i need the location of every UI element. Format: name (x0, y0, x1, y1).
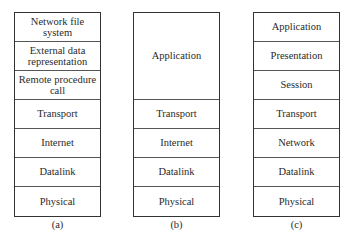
layer-network-file-system: Network file system (15, 13, 100, 42)
protocol-stack-c: Application Presentation Session Transpo… (253, 12, 340, 217)
layer-application: Application (254, 13, 339, 42)
layer-presentation: Presentation (254, 42, 339, 71)
layer-internet: Internet (15, 129, 100, 158)
layer-physical: Physical (254, 187, 339, 216)
layer-datalink: Datalink (254, 158, 339, 187)
layer-transport: Transport (254, 100, 339, 129)
layer-external-data-representation: External data representation (15, 42, 100, 71)
layer-network: Network (254, 129, 339, 158)
layer-remote-procedure-call: Remote procedure call (15, 71, 100, 100)
layer-internet: Internet (134, 129, 219, 158)
layer-application: Application (134, 13, 219, 100)
layer-physical: Physical (134, 187, 219, 216)
protocol-stack-a: Network file system External data repres… (14, 12, 101, 217)
caption-b: (b) (133, 219, 220, 230)
caption-a: (a) (14, 219, 101, 230)
layer-datalink: Datalink (134, 158, 219, 187)
layer-transport: Transport (15, 100, 100, 129)
layer-session: Session (254, 71, 339, 100)
layer-datalink: Datalink (15, 158, 100, 187)
caption-c: (c) (253, 219, 340, 230)
layer-physical: Physical (15, 187, 100, 216)
protocol-stack-b: Application Transport Internet Datalink … (133, 12, 220, 217)
layer-transport: Transport (134, 100, 219, 129)
